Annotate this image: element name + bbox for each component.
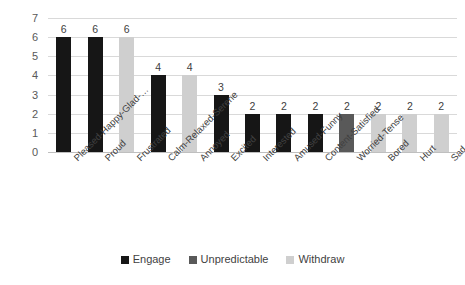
x-axis-category-label: Bored [386, 156, 393, 163]
chart-legend: EngageUnpredictableWithdraw [0, 254, 465, 265]
x-axis-category-label: Amused-Funny [292, 156, 299, 163]
bar-value-label: 4 [187, 62, 193, 73]
x-axis-category-label: Annoyed [198, 156, 205, 163]
x-axis-category-label: Proud [103, 156, 110, 163]
y-axis-tick-label: 1 [32, 127, 38, 138]
bar-value-label: 6 [124, 24, 130, 35]
y-axis-tick-label: 6 [32, 32, 38, 43]
y-axis-tick-label: 5 [32, 51, 38, 62]
bar-value-label: 2 [407, 101, 413, 112]
bar-value-label: 2 [344, 101, 350, 112]
y-axis-tick-label: 3 [32, 89, 38, 100]
legend-item-engage[interactable]: Engage [121, 254, 171, 265]
bar-value-label: 2 [313, 101, 319, 112]
bar[interactable] [56, 37, 71, 152]
x-axis: Pleased-Happy-Glad-…ProudFrustratedCalm-… [0, 152, 465, 247]
x-axis-category-label: Excited [229, 156, 236, 163]
bar[interactable] [434, 114, 449, 152]
bar-value-label: 4 [155, 62, 161, 73]
x-axis-category-label: Sad [449, 156, 456, 163]
y-axis-tick-label: 7 [32, 13, 38, 24]
x-axis-category-label: Frustrated [135, 156, 142, 163]
bar-value-label: 2 [438, 101, 444, 112]
x-axis-category-label: Pleased-Happy-Glad-… [72, 156, 79, 163]
y-axis: 01234567 [0, 18, 44, 152]
legend-item-unpredictable[interactable]: Unpredictable [189, 254, 269, 265]
legend-swatch-icon [121, 256, 129, 264]
bar-value-label: 2 [281, 101, 287, 112]
x-axis-category-label: Worried-Tense [355, 156, 362, 163]
x-axis-category-label: Calm-Relaxed-Serene [166, 156, 173, 163]
bar-value-label: 6 [92, 24, 98, 35]
bar-value-label: 3 [218, 82, 224, 93]
legend-label: Withdraw [298, 254, 344, 265]
x-axis-category-label: Content-Satisfied [323, 156, 330, 163]
y-axis-tick-label: 4 [32, 70, 38, 81]
legend-swatch-icon [286, 256, 294, 264]
legend-label: Unpredictable [201, 254, 269, 265]
legend-swatch-icon [189, 256, 197, 264]
bar-value-label: 6 [61, 24, 67, 35]
legend-label: Engage [133, 254, 171, 265]
x-axis-category-label: Hurt [418, 156, 425, 163]
bar-value-label: 2 [250, 101, 256, 112]
legend-item-withdraw[interactable]: Withdraw [286, 254, 344, 265]
bar-chart: 01234567 6664432222222 Pleased-Happy-Gla… [0, 0, 465, 285]
x-axis-category-label: Interested [261, 156, 268, 163]
y-axis-tick-label: 2 [32, 108, 38, 119]
